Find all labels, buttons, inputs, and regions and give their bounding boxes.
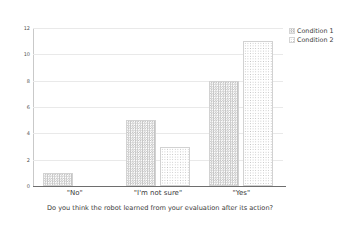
bar-condition-2 — [160, 147, 190, 187]
bar-group — [116, 28, 199, 186]
legend-item-condition-2: Condition 2 — [289, 36, 353, 44]
x-axis-line — [33, 186, 286, 187]
bar-series-container — [33, 28, 283, 186]
bar-condition-2 — [243, 41, 273, 186]
y-axis-tick-label: 8 — [27, 78, 30, 83]
legend-label-condition-1: Condition 1 — [297, 27, 334, 35]
legend-item-condition-1: Condition 1 — [289, 27, 353, 35]
y-axis-tick-label: 6 — [27, 105, 30, 110]
x-axis-tick-label: "I'm not sure" — [134, 189, 182, 198]
bar-chart-figure: 024681012 "No""I'm not sure""Yes" Do you… — [0, 0, 356, 230]
x-axis-tick-label: "No" — [67, 189, 83, 198]
plot-area: 024681012 — [33, 28, 283, 186]
chart-caption: Do you think the robot learned from your… — [36, 204, 284, 212]
legend-swatch-condition-1 — [289, 28, 295, 34]
y-axis-tick-label: 4 — [27, 131, 30, 136]
y-axis-tick-label: 0 — [27, 184, 30, 189]
y-axis-tick-label: 12 — [24, 26, 30, 31]
bar-condition-1 — [43, 173, 73, 186]
chart-legend: Condition 1 Condition 2 — [289, 27, 353, 45]
bar-group — [33, 28, 116, 186]
legend-label-condition-2: Condition 2 — [297, 36, 334, 44]
bar-condition-1 — [126, 120, 156, 186]
bar-condition-1 — [209, 81, 239, 186]
legend-swatch-condition-2 — [289, 37, 295, 43]
y-axis-tick-label: 10 — [24, 52, 30, 57]
x-axis-tick-label: "Yes" — [232, 189, 250, 198]
bar-group — [200, 28, 283, 186]
y-axis-tick-label: 2 — [27, 157, 30, 162]
